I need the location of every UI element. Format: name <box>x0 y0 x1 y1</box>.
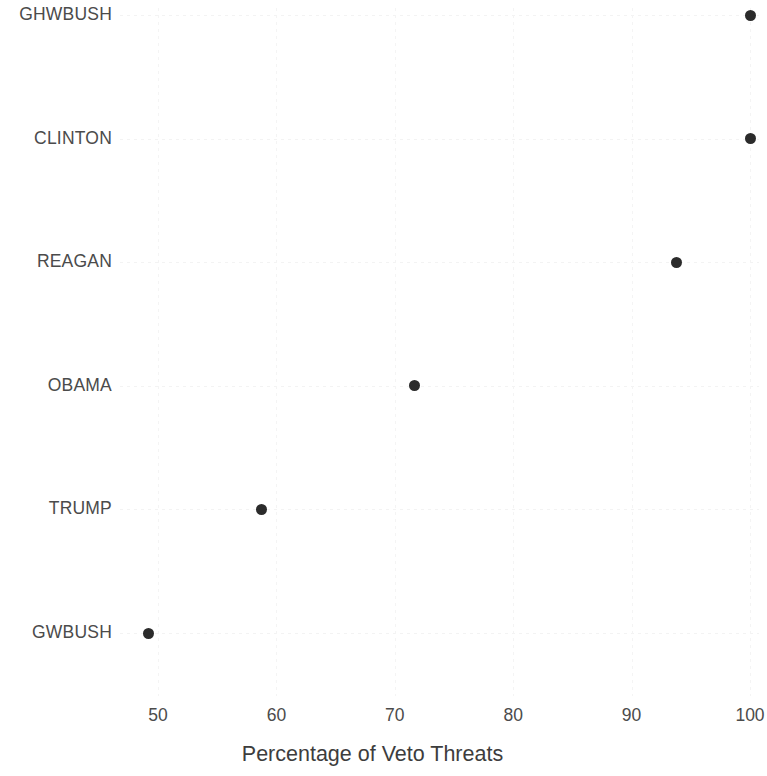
category-label: TRUMP <box>49 501 112 519</box>
gridline-vertical <box>395 8 396 696</box>
gridline-vertical <box>158 8 159 696</box>
category-label: CLINTON <box>34 130 112 148</box>
gridline-horizontal <box>120 633 759 634</box>
category-label: GWBUSH <box>32 624 112 642</box>
category-label: GHWBUSH <box>19 6 112 24</box>
gridline-horizontal <box>120 509 759 510</box>
gridline-horizontal <box>120 15 759 16</box>
data-point <box>143 628 154 639</box>
data-point <box>671 257 682 268</box>
x-axis-tick-label: 80 <box>503 707 522 725</box>
x-axis-tick-label: 90 <box>622 707 641 725</box>
data-point <box>745 10 756 21</box>
category-label: OBAMA <box>48 377 112 395</box>
gridline-horizontal <box>120 262 759 263</box>
data-point <box>409 380 420 391</box>
gridline-vertical <box>632 8 633 696</box>
gridline-vertical <box>276 8 277 696</box>
data-point <box>256 504 267 515</box>
gridline-vertical <box>513 8 514 696</box>
gridline-horizontal <box>120 386 759 387</box>
gridline-horizontal <box>120 139 759 140</box>
plot-area: GHWBUSHCLINTONREAGANOBAMATRUMPGWBUSH <box>0 0 767 700</box>
data-point <box>745 133 756 144</box>
gridline-vertical <box>750 8 751 696</box>
x-axis-tick-label: 100 <box>735 707 764 725</box>
x-axis-tick-label: 60 <box>267 707 286 725</box>
x-axis-title: Percentage of Veto Threats <box>0 744 767 766</box>
category-label: REAGAN <box>37 253 112 271</box>
x-axis-tick-label: 50 <box>148 707 167 725</box>
dot-plot-chart: GHWBUSHCLINTONREAGANOBAMATRUMPGWBUSH 506… <box>0 0 767 776</box>
x-axis-tick-label: 70 <box>385 707 404 725</box>
